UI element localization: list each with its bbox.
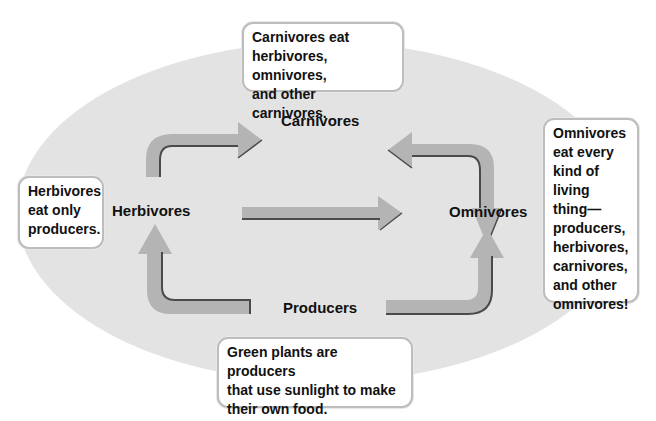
- node-producers: Producers: [283, 299, 357, 316]
- callout-producers: Green plants are producers that use sunl…: [217, 337, 413, 408]
- node-omnivores: Omnivores: [449, 203, 527, 220]
- callout-herbivores: Herbivores eat only producers.: [18, 176, 104, 249]
- callout-herbivores-text: Herbivores eat only producers.: [28, 182, 94, 239]
- callout-carnivores-text: Carnivores eat herbivores, omnivores, an…: [252, 28, 394, 123]
- callout-producers-text: Green plants are producers that use sunl…: [227, 343, 403, 419]
- callout-omnivores: Omnivores eat every kind of living thing…: [543, 118, 639, 303]
- callout-carnivores: Carnivores eat herbivores, omnivores, an…: [242, 22, 404, 92]
- callout-omnivores-text: Omnivores eat every kind of living thing…: [553, 124, 629, 314]
- node-herbivores: Herbivores: [112, 202, 190, 219]
